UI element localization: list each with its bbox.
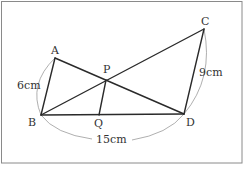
label-a: A <box>50 44 60 57</box>
measure-bd: 15cm <box>96 133 127 146</box>
geometry-diagram: A B C D P Q 6cm 15cm 9cm <box>0 0 250 169</box>
segment-bd <box>41 114 184 115</box>
segment-bc <box>41 29 204 115</box>
segment-ad <box>55 58 184 114</box>
label-q: Q <box>94 117 103 130</box>
label-b: B <box>28 116 36 129</box>
measure-cd: 9cm <box>199 66 223 79</box>
measure-ab: 6cm <box>17 79 41 92</box>
arc-bd-right <box>132 114 184 140</box>
label-c: C <box>201 15 209 28</box>
label-d: D <box>186 116 195 129</box>
segment-ab <box>41 58 55 115</box>
label-p: P <box>103 63 111 76</box>
arc-bd-left <box>41 115 92 139</box>
segment-pq <box>99 80 106 115</box>
